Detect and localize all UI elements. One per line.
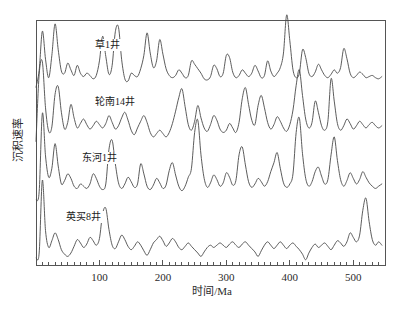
x-axis-ticks	[36, 260, 385, 265]
x-axis-tick-labels: 100200300400500	[91, 271, 362, 283]
series-label: 东河1井	[82, 151, 117, 163]
trace-curve	[36, 60, 382, 142]
series-label: 英买8井	[66, 210, 101, 222]
y-axis-title: 沉积速率	[11, 118, 24, 162]
x-tick-label: 500	[345, 271, 362, 283]
trace-curves	[36, 15, 382, 260]
trace-curve	[36, 15, 382, 87]
x-tick-label: 200	[155, 271, 172, 283]
x-tick-label: 300	[218, 271, 235, 283]
series-labels: 草1井轮南14井东河1井英买8井	[64, 38, 145, 223]
series-label: 轮南14井	[95, 95, 135, 107]
x-tick-label: 100	[91, 271, 108, 283]
x-tick-label: 400	[282, 271, 299, 283]
series-label: 草1井	[95, 38, 120, 50]
chart-figure: 100200300400500 草1井轮南14井东河1井英买8井 时间/Ma 沉…	[0, 0, 411, 310]
x-axis-title: 时间/Ma	[192, 285, 232, 297]
sedimentation-rate-chart: 100200300400500 草1井轮南14井东河1井英买8井 时间/Ma 沉…	[0, 0, 411, 310]
